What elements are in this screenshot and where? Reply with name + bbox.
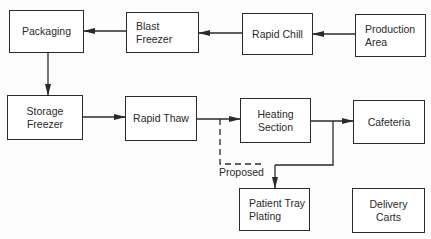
node-rapid-chill: Rapid Chill [242,13,313,55]
node-cafeteria: Cafeteria [353,100,425,144]
proposed-label: Proposed [219,166,264,178]
node-label: Cafeteria [368,116,411,129]
node-label: Rapid Chill [252,28,303,41]
node-label: Storage Freezer [27,105,64,131]
node-label: Blast Freezer [136,20,172,46]
node-label: Patient Tray Plating [249,197,305,223]
flowchart-canvas: Packaging Blast Freezer Rapid Chill Prod… [0,0,431,239]
node-label: Rapid Thaw [133,112,189,125]
node-storage-freezer: Storage Freezer [7,95,83,140]
node-label: Delivery Carts [370,198,408,224]
node-production-area: Production Area [355,14,426,57]
node-patient-tray-plating: Patient Tray Plating [239,188,310,231]
node-rapid-thaw: Rapid Thaw [125,96,197,141]
node-packaging: Packaging [9,10,84,53]
node-delivery-carts: Delivery Carts [352,188,425,233]
node-heating-section: Heating Section [240,98,311,143]
node-label: Packaging [22,25,71,38]
node-label: Production Area [365,23,415,49]
node-blast-freezer: Blast Freezer [126,12,199,53]
node-label: Heating Section [257,108,293,134]
